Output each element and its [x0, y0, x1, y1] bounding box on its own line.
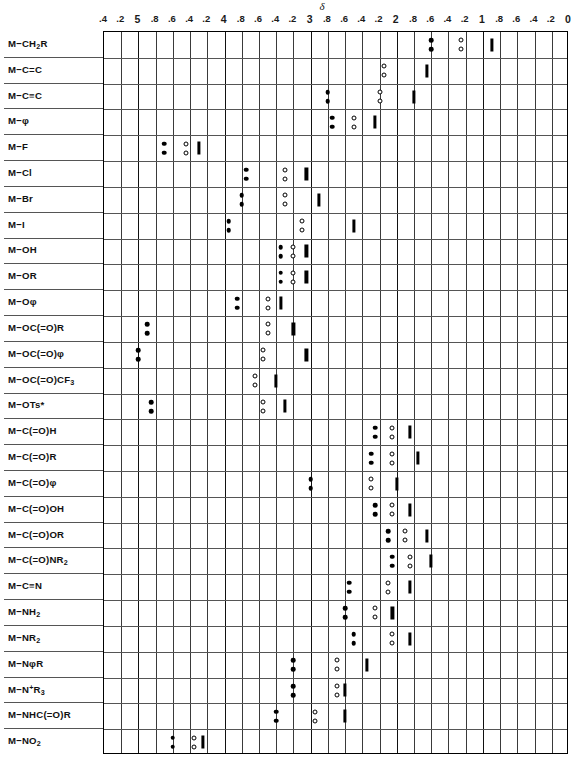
- data-marker-bar: [352, 219, 355, 232]
- data-marker-open: [312, 709, 317, 714]
- row-label-M-C#C: M−C≡C: [8, 91, 103, 101]
- row-divider: [4, 728, 103, 729]
- row-divider: [4, 160, 103, 161]
- gridline-vertical: [207, 32, 208, 753]
- row-divider: [4, 418, 103, 419]
- data-marker-open: [390, 434, 395, 439]
- data-marker-open: [300, 219, 305, 224]
- gridline-horizontal: [104, 678, 567, 679]
- data-marker-filled: [330, 116, 335, 121]
- row-label-M-OTs*: M−OTs*: [8, 400, 103, 410]
- data-marker-bar: [408, 581, 411, 594]
- axis-tick-2.2: .2: [375, 14, 383, 24]
- data-marker-open: [390, 641, 395, 646]
- gridline-horizontal: [104, 239, 567, 240]
- data-marker-open: [282, 167, 287, 172]
- axis-tick-3: 3: [307, 14, 313, 25]
- gridline-horizontal: [104, 264, 567, 265]
- data-marker-open: [403, 538, 408, 543]
- row-divider: [4, 289, 103, 290]
- row-label-M-C(=O)OR: M−C(=O)OR: [8, 530, 103, 540]
- data-marker-open: [312, 718, 317, 723]
- axis-tick-3.8: .8: [237, 14, 245, 24]
- row-divider: [4, 108, 103, 109]
- gridline-vertical: [448, 32, 449, 753]
- row-label-M-phi: M−φ: [8, 116, 103, 126]
- data-marker-open: [300, 228, 305, 233]
- data-marker-open: [334, 667, 339, 672]
- gridline-vertical: [276, 32, 277, 753]
- data-marker-filled: [343, 615, 348, 620]
- data-marker-open: [183, 141, 188, 146]
- axis-tick-3.4: .4: [271, 14, 279, 24]
- data-marker-filled: [386, 538, 391, 543]
- data-marker-open: [377, 99, 382, 104]
- axis-tick-labels: .4.25.8.6.4.24.8.6.4.23.8.6.4.22.8.6.4.2…: [0, 0, 580, 26]
- data-marker-filled: [347, 589, 352, 594]
- row-divider: [4, 57, 103, 58]
- data-marker-filled: [330, 125, 335, 130]
- gridline-horizontal: [104, 135, 567, 136]
- gridline-horizontal: [104, 497, 567, 498]
- data-marker-filled: [291, 684, 296, 689]
- data-marker-bar: [292, 322, 295, 335]
- axis-tick-3.6: .6: [254, 14, 262, 24]
- gridline-vertical: [466, 32, 467, 753]
- data-marker-bar: [391, 606, 394, 619]
- data-marker-open: [386, 589, 391, 594]
- gridline-horizontal: [104, 703, 567, 704]
- gridline-horizontal: [104, 600, 567, 601]
- data-marker-filled: [145, 331, 150, 336]
- gridline-vertical: [431, 32, 432, 753]
- axis-tick-1.6: .6: [426, 14, 434, 24]
- data-marker-filled: [308, 486, 313, 491]
- axis-tick-2.8: .8: [323, 14, 331, 24]
- data-marker-bar: [408, 632, 411, 645]
- gridline-vertical: [500, 32, 501, 753]
- row-label-M-C(=O)OH: M−C(=O)OH: [8, 504, 103, 514]
- data-marker-open: [368, 477, 373, 482]
- gridline-horizontal: [104, 368, 567, 369]
- data-marker-bar: [344, 684, 347, 697]
- data-marker-open: [351, 115, 356, 120]
- data-marker-open: [407, 554, 412, 559]
- data-marker-bar: [365, 658, 368, 671]
- data-marker-bar: [374, 116, 377, 129]
- axis-tick-3.2: .2: [288, 14, 296, 24]
- data-marker-filled: [390, 555, 395, 560]
- data-marker-open: [192, 744, 197, 749]
- axis-tick-0: 0: [565, 14, 571, 25]
- row-divider: [4, 212, 103, 213]
- gridline-vertical: [517, 32, 518, 753]
- axis-tick-0.8: .8: [495, 14, 503, 24]
- row-divider: [4, 496, 103, 497]
- data-marker-filled: [373, 434, 378, 439]
- row-label-M-NR2: M−NR2: [8, 633, 103, 644]
- axis-tick-2: 2: [393, 14, 399, 25]
- data-marker-bar: [408, 426, 411, 439]
- gridline-vertical: [345, 32, 346, 753]
- gridline-horizontal: [104, 84, 567, 85]
- row-divider: [4, 238, 103, 239]
- plot-area: [103, 31, 568, 754]
- data-marker-filled: [291, 693, 296, 698]
- data-marker-bar: [417, 452, 420, 465]
- data-marker-filled: [278, 271, 283, 276]
- axis-tick-2.4: .4: [357, 14, 365, 24]
- gridline-vertical: [242, 32, 243, 753]
- data-marker-filled: [162, 150, 167, 155]
- row-label-M-NH2: M−NH2: [8, 607, 103, 618]
- gridline-vertical: [535, 32, 536, 753]
- gridline-horizontal: [104, 109, 567, 110]
- data-marker-filled: [162, 141, 167, 146]
- data-marker-filled: [390, 564, 395, 569]
- row-divider: [4, 83, 103, 84]
- data-marker-open: [282, 193, 287, 198]
- data-marker-bar: [412, 90, 415, 103]
- data-marker-open: [265, 331, 270, 336]
- gridline-vertical: [328, 32, 329, 753]
- data-marker-filled: [429, 47, 434, 52]
- data-marker-open: [334, 658, 339, 663]
- data-marker-bar: [430, 555, 433, 568]
- row-divider: [4, 315, 103, 316]
